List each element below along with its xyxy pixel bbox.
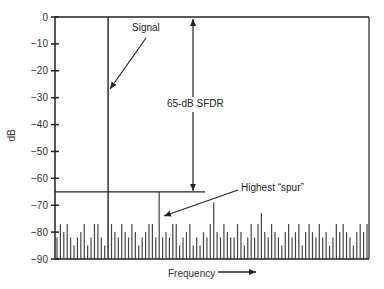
chart-canvas: 0−10−20−30−40−50−60−70−80−90 bbox=[0, 0, 384, 289]
signal-arrow bbox=[110, 38, 146, 89]
y-tick-label: −50 bbox=[31, 146, 48, 157]
annotations bbox=[55, 19, 256, 272]
signal-label: Signal bbox=[132, 22, 160, 33]
y-tick-label: −30 bbox=[31, 92, 48, 103]
x-axis-title: Frequency bbox=[168, 268, 215, 279]
y-tick-label: −90 bbox=[31, 254, 48, 265]
y-tick-label: 0 bbox=[42, 12, 48, 23]
plot-frame bbox=[55, 17, 369, 259]
y-tick-label: −20 bbox=[31, 65, 48, 76]
y-tick-label: −10 bbox=[31, 38, 48, 49]
y-tick-label: −70 bbox=[31, 200, 48, 211]
y-tick-label: −40 bbox=[31, 119, 48, 130]
sfdr-label: 65-dB SFDR bbox=[166, 98, 225, 109]
noise-floor-bars bbox=[57, 17, 367, 259]
y-tick-label: −80 bbox=[31, 227, 48, 238]
y-axis-title: dB bbox=[6, 129, 17, 141]
highest-spur-arrow bbox=[164, 190, 238, 216]
highest-spur-label: Highest “spur” bbox=[241, 182, 304, 193]
y-tick-label: −60 bbox=[31, 173, 48, 184]
sfdr-chart: 0−10−20−30−40−50−60−70−80−90 dB Frequenc… bbox=[0, 0, 384, 289]
